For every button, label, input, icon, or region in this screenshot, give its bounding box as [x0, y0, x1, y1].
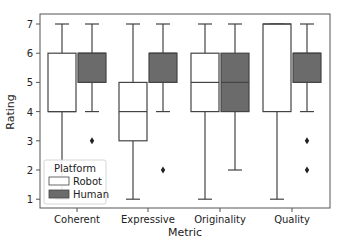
x-tick-label: Quality [274, 214, 310, 225]
x-axis: CoherentExpressiveOriginalityQuality [54, 208, 310, 225]
legend-label-robot: Robot [73, 176, 102, 187]
x-tick-label: Expressive [121, 214, 175, 225]
x-tick-label: Coherent [54, 214, 100, 225]
legend: Platform Robot Human [44, 160, 109, 204]
box-plot-chart: 1234567 CoherentExpressiveOriginalityQua… [0, 0, 346, 245]
legend-swatch-human [49, 190, 69, 198]
y-axis: 1234567 [27, 19, 40, 205]
x-tick-label: Originality [194, 214, 246, 225]
y-tick-label: 7 [27, 19, 33, 30]
y-tick-label: 6 [27, 48, 33, 59]
legend-swatch-robot [49, 177, 69, 185]
y-tick-label: 4 [27, 107, 33, 118]
legend-title: Platform [54, 163, 96, 174]
y-tick-label: 3 [27, 136, 33, 147]
y-tick-label: 1 [27, 194, 33, 205]
legend-label-human: Human [73, 189, 109, 200]
y-tick-label: 5 [27, 77, 33, 88]
x-axis-label: Metric [168, 226, 202, 239]
y-axis-label: Rating [4, 94, 17, 129]
y-tick-label: 2 [27, 165, 33, 176]
